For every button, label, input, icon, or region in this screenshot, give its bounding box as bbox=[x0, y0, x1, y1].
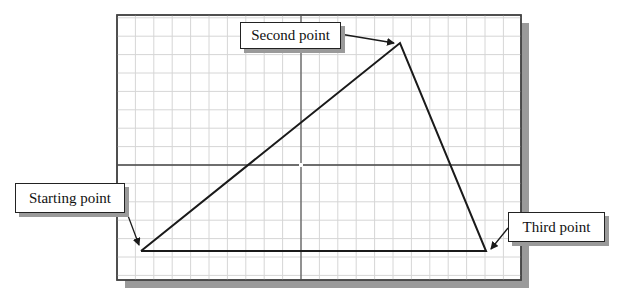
starting-point-label-text: Starting point bbox=[29, 190, 111, 207]
second-point-label: Second point bbox=[240, 22, 341, 49]
third-point-label: Third point bbox=[508, 212, 605, 242]
starting-point-label: Starting point bbox=[15, 183, 125, 213]
origin-marker bbox=[299, 163, 303, 167]
second-point-label-text: Second point bbox=[251, 27, 330, 44]
third-point-label-text: Third point bbox=[523, 219, 591, 236]
